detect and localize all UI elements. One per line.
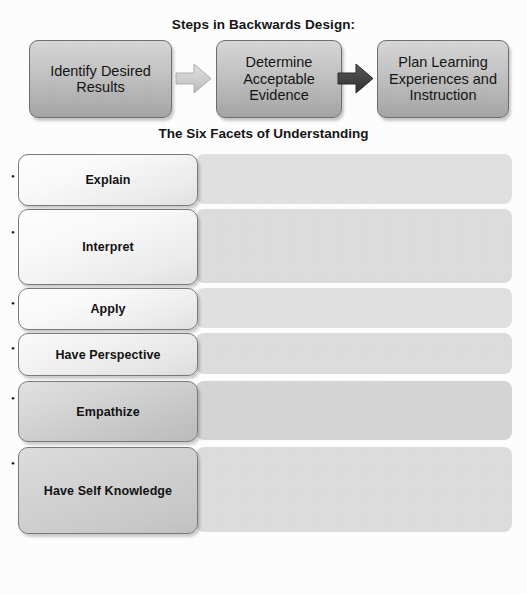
step-box-label: Plan Learning Experiences and Instructio… [378, 54, 508, 104]
table-row: Have Perspective • See and hear points o… [0, 332, 527, 379]
facet-label-apply: Apply [18, 288, 198, 330]
facet-description-panel [196, 288, 512, 328]
facet-label-empathize: Empathize [18, 381, 198, 442]
six-facets-table: Explain • Provide thorough and justifiab… [0, 152, 527, 541]
facet-description-panel [196, 333, 512, 374]
table-row: Have Self Knowledge • Perceive the perso… [0, 445, 527, 541]
facet-label-have-self-knowledge: Have Self Knowledge [18, 447, 198, 534]
facet-description-panel [196, 381, 512, 440]
table-row: Apply • Effectively use and adapt what t… [0, 287, 527, 332]
facet-label-explain: Explain [18, 154, 198, 206]
step-box-determine-acceptable-evidence: Determine Acceptable Evidence [216, 40, 342, 118]
facet-label-text: Apply [90, 302, 125, 316]
table-row: Explain • Provide thorough and justifiab… [0, 152, 527, 208]
step-box-identify-desired-results: Identify Desired Results [29, 40, 172, 118]
facet-label-text: Explain [85, 173, 130, 187]
page-title: Steps in Backwards Design: [0, 17, 527, 32]
bullet-icon: • [11, 297, 15, 311]
table-row: Empathize • Find value in what others mi… [0, 379, 527, 445]
arrow-right-dark-icon [337, 62, 375, 95]
arrow-right-light-icon [175, 62, 213, 95]
bullet-icon: • [11, 392, 15, 406]
facet-label-text: Empathize [76, 405, 139, 419]
backwards-design-flow: Identify Desired Results Determine Accep… [0, 40, 527, 118]
step-box-label: Determine Acceptable Evidence [217, 54, 341, 104]
facet-description-panel [196, 447, 512, 532]
bullet-icon: • [11, 170, 15, 184]
facet-description-panel [196, 154, 512, 204]
facet-label-have-perspective: Have Perspective [18, 333, 198, 376]
table-row: Interpret • Tell meaningful stories, off… [0, 208, 527, 287]
bullet-icon: • [11, 226, 15, 240]
facet-label-text: Interpret [82, 240, 134, 254]
facet-label-interpret: Interpret [18, 209, 198, 285]
step-box-label: Identify Desired Results [30, 63, 171, 96]
bullet-icon: • [11, 457, 15, 471]
facet-label-text: Have Self Knowledge [44, 484, 172, 498]
facet-label-text: Have Perspective [55, 348, 160, 362]
facet-description-panel [196, 209, 512, 283]
bullet-icon: • [11, 342, 15, 356]
step-box-plan-learning-experiences: Plan Learning Experiences and Instructio… [377, 40, 509, 118]
facets-section-title: The Six Facets of Understanding [0, 126, 527, 141]
